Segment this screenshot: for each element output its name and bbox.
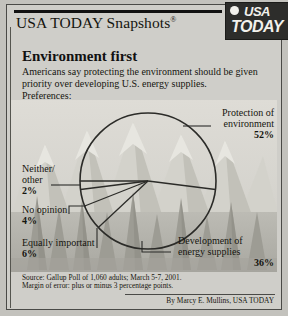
byline-rule [125, 294, 275, 295]
callout-no-opinion-value: 4% [22, 215, 37, 226]
callout-development-value: 36% [178, 257, 274, 268]
callout-protection-value: 52% [254, 129, 274, 140]
logo-line-1: USA [226, 4, 288, 19]
brand-title-text: USA TODAY Snapshots [16, 14, 170, 31]
pie-radius-36 [98, 181, 148, 228]
callout-no-opinion: No opinion 4% [22, 204, 92, 226]
logo-line-2: TODAY [226, 18, 288, 36]
callout-neither-line1: Neither/ [22, 163, 55, 174]
snapshot-page: USA TODAY Snapshots® USA TODAY Environme… [0, 0, 288, 316]
header: USA TODAY Snapshots® USA TODAY [13, 8, 275, 38]
callout-development: Development of energy supplies 36% [178, 235, 274, 268]
page-title: Environment first [22, 48, 137, 65]
brand-title: USA TODAY Snapshots® [16, 14, 177, 32]
callout-development-line2: energy supplies [178, 246, 240, 257]
callout-development-line1: Development of [178, 235, 243, 246]
deck-text: Americans say protecting the environment… [22, 66, 262, 89]
byline: By Marcy E. Mullins, USA TODAY [125, 296, 274, 305]
callout-no-opinion-line1: No opinion [22, 204, 67, 215]
callout-neither: Neither/ other 2% [22, 163, 82, 196]
callout-protection: Protection of environment 52% [196, 107, 274, 140]
callout-neither-line2: other [22, 174, 43, 185]
registered-mark-icon: ® [170, 15, 176, 24]
callout-equally-line1: Equally important [22, 237, 95, 248]
callout-protection-line2: environment [223, 118, 274, 129]
header-rule [14, 10, 222, 13]
pie-radius-52 [148, 181, 216, 190]
callout-protection-line1: Protection of [222, 107, 274, 118]
source-note: Source: Gallup Poll of 1,060 adults; Mar… [22, 274, 254, 291]
callout-equally-value: 6% [22, 248, 37, 259]
callout-neither-value: 2% [22, 185, 37, 196]
usa-today-logo: USA TODAY [225, 2, 288, 40]
source-line-2: Margin of error: plus or minus 3 percent… [22, 281, 173, 290]
callout-equally-important: Equally important 6% [22, 237, 118, 259]
